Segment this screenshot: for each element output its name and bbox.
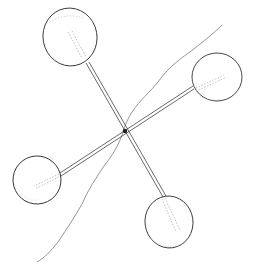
- sphere-top-left: [38, 4, 101, 70]
- illustration-canvas: wavy boundary line running from upper ri…: [0, 0, 256, 271]
- four-sphere-rod-diagram: [0, 0, 256, 271]
- center-junction: [123, 129, 127, 133]
- sphere-right: [192, 53, 242, 101]
- sphere-bottom: [142, 193, 197, 251]
- sphere-bottom-left: [8, 151, 67, 210]
